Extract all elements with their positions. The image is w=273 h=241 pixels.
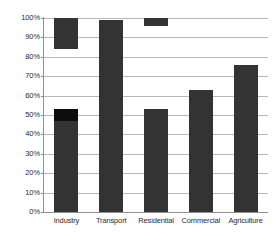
x-tick-label: Agriculture — [219, 217, 272, 225]
y-axis-labels: 100%90%80%70%60%50%40%30%20%10%0% — [0, 0, 40, 241]
bar-segment[interactable] — [189, 90, 213, 212]
y-tick-mark — [41, 96, 44, 97]
y-tick-mark — [41, 76, 44, 77]
bar-segment[interactable] — [54, 18, 78, 49]
plot-area — [44, 18, 268, 212]
bar-group[interactable] — [189, 18, 213, 212]
y-tick-mark — [41, 37, 44, 38]
y-tick-label: 90% — [4, 33, 40, 41]
y-tick-label: 30% — [4, 150, 40, 158]
bar-group[interactable] — [99, 18, 123, 212]
y-tick-mark — [41, 193, 44, 194]
y-tick-label: 20% — [4, 169, 40, 177]
bar-segment[interactable] — [54, 121, 78, 212]
bar-segment[interactable] — [54, 109, 78, 121]
y-tick-label: 100% — [4, 14, 40, 22]
y-tick-mark — [41, 18, 44, 19]
y-tick-label: 0% — [4, 208, 40, 216]
y-tick-label: 50% — [4, 111, 40, 119]
x-axis-labels: IndustryTransportResidentialCommercialAg… — [44, 214, 268, 234]
y-tick-mark — [41, 154, 44, 155]
bar-segment[interactable] — [234, 65, 258, 212]
y-tick-mark — [41, 212, 44, 213]
bar-group[interactable] — [54, 18, 78, 212]
y-tick-label: 80% — [4, 53, 40, 61]
y-tick-label: 70% — [4, 72, 40, 80]
bar-segment[interactable] — [144, 18, 168, 26]
bar-segment[interactable] — [99, 20, 123, 212]
bar-group[interactable] — [144, 18, 168, 212]
bar-group[interactable] — [234, 18, 258, 212]
y-tick-label: 40% — [4, 130, 40, 138]
gridline — [44, 212, 268, 213]
y-tick-mark — [41, 115, 44, 116]
y-tick-mark — [41, 57, 44, 58]
y-tick-label: 60% — [4, 92, 40, 100]
y-tick-mark — [41, 173, 44, 174]
y-tick-label: 10% — [4, 189, 40, 197]
bar-chart: 100%90%80%70%60%50%40%30%20%10%0% Indust… — [0, 0, 273, 241]
bar-segment[interactable] — [144, 109, 168, 212]
y-tick-mark — [41, 134, 44, 135]
